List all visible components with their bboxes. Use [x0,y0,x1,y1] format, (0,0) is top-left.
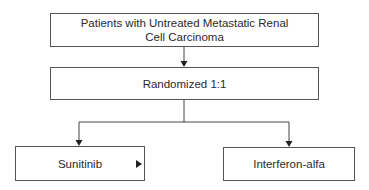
sunitinib-label: Sunitinib [58,157,102,171]
randomization-label: Randomized 1:1 [143,77,227,91]
randomization-box: Randomized 1:1 [50,67,319,100]
sunitinib-box: Sunitinib [15,146,145,181]
population-label-line1: Patients with Untreated Metastatic Renal [81,16,289,30]
population-label-line2: Cell Carcinoma [145,30,224,44]
arrowhead-right-icon [136,160,142,168]
population-box: Patients with Untreated Metastatic Renal… [50,13,319,47]
interferon-alfa-label: Interferon-alfa [253,157,325,171]
interferon-alfa-box: Interferon-alfa [223,147,355,181]
